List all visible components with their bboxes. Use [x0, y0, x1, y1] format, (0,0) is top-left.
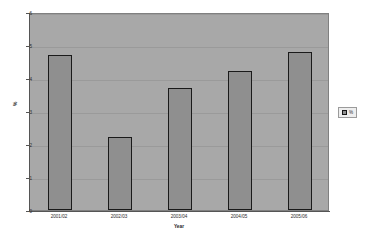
- bar-2004-05: [228, 71, 252, 210]
- x-tick-label: 2005/06: [274, 214, 324, 220]
- y-tick-mark: [26, 13, 29, 14]
- x-tick-label: 2001/02: [34, 214, 84, 220]
- x-tick-label: 2004/05: [214, 214, 264, 220]
- bar-chart: 0123456 2001/022002/032003/042004/052005…: [0, 0, 366, 241]
- y-axis-title: %: [13, 102, 18, 106]
- legend: %: [338, 107, 357, 118]
- bar-2002-03: [108, 137, 132, 210]
- bar-2005-06: [288, 52, 312, 210]
- plot-area: [29, 13, 329, 211]
- bars-layer: [30, 14, 328, 210]
- x-tick-label: 2003/04: [154, 214, 204, 220]
- legend-swatch-percent: [342, 110, 347, 115]
- y-tick-mark: [26, 211, 29, 212]
- y-tick-mark: [26, 46, 29, 47]
- x-axis-title: Year: [0, 224, 358, 229]
- y-tick-mark: [26, 79, 29, 80]
- x-tick-label: 2002/03: [94, 214, 144, 220]
- bar-2003-04: [168, 88, 192, 210]
- y-tick-mark: [26, 178, 29, 179]
- x-axis-line: [29, 211, 330, 212]
- bar-2001-02: [48, 55, 72, 210]
- legend-label-percent: %: [349, 110, 353, 115]
- y-tick-mark: [26, 112, 29, 113]
- y-tick-mark: [26, 145, 29, 146]
